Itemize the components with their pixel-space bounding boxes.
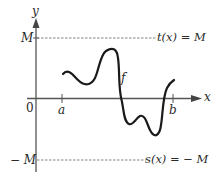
tick-a-label: a bbox=[58, 104, 65, 116]
function-curve-f bbox=[63, 49, 174, 135]
x-axis-label: x bbox=[204, 91, 211, 103]
x-axis-arrow-icon bbox=[191, 95, 202, 102]
origin-label: 0 bbox=[26, 102, 34, 114]
function-f-label: f bbox=[121, 72, 125, 84]
lower-bound-axis-label: − M bbox=[10, 154, 36, 166]
y-axis-label: y bbox=[32, 5, 39, 17]
y-axis-arrow-icon bbox=[33, 18, 40, 28]
upper-bound-function-label: t(x) = M bbox=[157, 32, 206, 44]
tick-b-label: b bbox=[169, 104, 177, 116]
lower-bound-function-label: s(x) = − M bbox=[145, 154, 208, 166]
bounded-function-diagram: y x 0 a b M t(x) = M − M s(x) = − M f bbox=[0, 0, 216, 181]
upper-bound-axis-label: M bbox=[21, 32, 33, 44]
